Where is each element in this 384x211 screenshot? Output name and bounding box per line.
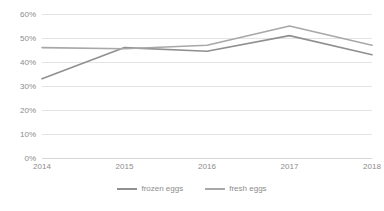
series-line [42, 36, 372, 79]
legend-item[interactable]: fresh eggs [205, 184, 266, 194]
series-layer [42, 14, 372, 158]
x-axis-tick-label: 2015 [116, 162, 134, 172]
legend-item[interactable]: frozen eggs [117, 184, 183, 194]
x-axis-tick-label: 2018 [363, 162, 381, 172]
legend-label: fresh eggs [229, 184, 266, 194]
y-axis-tick-label: 40% [20, 58, 36, 67]
legend-swatch-icon [205, 188, 225, 190]
x-axis-tick-label: 2016 [198, 162, 216, 172]
series-line [42, 26, 372, 49]
y-axis-tick-label: 20% [20, 106, 36, 115]
legend-label: frozen eggs [141, 184, 183, 194]
gridline [42, 158, 372, 159]
y-axis-tick-label: 60% [20, 10, 36, 19]
x-axis-tick-label: 2017 [281, 162, 299, 172]
plot-area [42, 14, 372, 158]
x-axis-tick-label: 2014 [33, 162, 51, 172]
chart-legend: frozen eggsfresh eggs [0, 184, 384, 194]
x-axis-tick-labels: 20142015201620172018 [42, 162, 372, 176]
legend-swatch-icon [117, 188, 137, 190]
line-chart: 0%10%20%30%40%50%60% 2014201520162017201… [0, 0, 384, 211]
y-axis-tick-labels: 0%10%20%30%40%50%60% [0, 14, 40, 158]
y-axis-tick-label: 50% [20, 34, 36, 43]
y-axis-tick-label: 10% [20, 130, 36, 139]
y-axis-tick-label: 30% [20, 82, 36, 91]
